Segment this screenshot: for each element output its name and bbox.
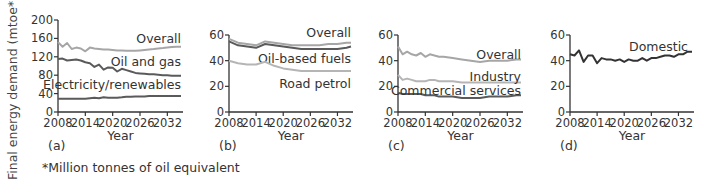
x-axis-label: Year [106, 128, 134, 143]
x-axis-label: Year [446, 128, 474, 143]
y-tick-label: 40 [378, 54, 393, 68]
x-tick-label: 2008 [383, 116, 412, 130]
panel-label: (a) [48, 138, 65, 153]
y-tick-label: 40 [209, 54, 224, 68]
y-tick-label: 200 [31, 13, 53, 27]
y-tick-label: 20 [550, 79, 565, 93]
x-tick-label: 2032 [153, 116, 182, 130]
y-axis-title: Final energy demand (mtoe*) [5, 0, 20, 180]
x-tick-label: 2014 [241, 116, 270, 130]
panel-label: (d) [560, 138, 578, 153]
x-tick-label: 2014 [411, 116, 440, 130]
y-tick-label: 60 [209, 28, 224, 42]
series-annotation: Overall [306, 25, 351, 40]
x-tick-label: 2008 [214, 116, 243, 130]
series-annotation: Road petrol [279, 76, 351, 91]
chart-figure: 0408012016020020082014202020262032Year(a… [0, 0, 713, 181]
series-line-electricity-renewables [58, 96, 181, 99]
y-tick-label: 20 [209, 79, 224, 93]
x-tick-label: 2008 [43, 116, 72, 130]
series-annotation: Electricity/renewables [43, 77, 181, 92]
series-annotation: Overall [136, 31, 181, 46]
y-tick-label: 60 [550, 28, 565, 42]
x-tick-label: 2032 [664, 116, 693, 130]
x-tick-label: 2014 [582, 116, 611, 130]
x-tick-label: 2008 [555, 116, 584, 130]
panel-label: (b) [219, 138, 237, 153]
series-annotation: Industry [470, 69, 522, 84]
x-axis-label: Year [618, 128, 646, 143]
y-tick-label: 120 [31, 50, 53, 64]
series-annotation: Domestic [629, 39, 688, 54]
series-annotation: Overall [476, 47, 521, 62]
panel-label: (c) [388, 138, 405, 153]
x-tick-label: 2032 [493, 116, 522, 130]
y-tick-label: 40 [550, 54, 565, 68]
x-axis-label: Year [277, 128, 305, 143]
y-tick-label: 160 [31, 31, 53, 45]
series-annotation: Oil and gas [111, 54, 181, 69]
series-annotation: Commercial services [391, 83, 521, 98]
x-tick-label: 2032 [323, 116, 352, 130]
x-tick-label: 2014 [71, 116, 100, 130]
y-tick-label: 60 [378, 28, 393, 42]
footnote: *Million tonnes of oil equivalent [42, 160, 240, 175]
